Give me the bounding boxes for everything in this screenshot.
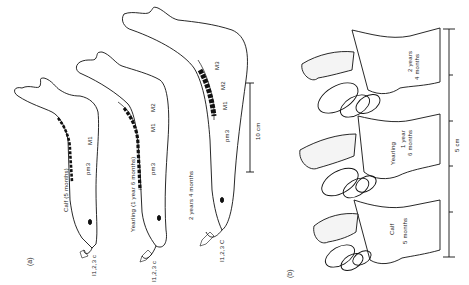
incisor-label-2-years: I1,2,3 C [219,239,225,262]
mandible-2-years [122,7,247,246]
incisor-label-calf: I1,2,3 c [91,255,97,276]
incisor-label-yearling: I1,2,3 c [151,261,157,282]
mandible-yearling [76,52,168,262]
tooth-label-2y-m2: M2 [220,81,226,90]
incisor-arcade-calf [314,200,440,274]
arcade-label-calf-line1: Calf [389,224,395,235]
figure-drawing [0,0,469,285]
incisor-arcade-yearling [300,114,440,202]
age-label-2-years: 2 years 4 months [188,171,194,220]
arcade-label-calf-line2: 5 months [402,218,408,244]
scale-bar-10cm [246,83,254,172]
arcade-label-yearling-line2: 1 year [400,130,406,148]
tooth-label-yearling-pm3: pm3 [150,163,156,175]
age-label-calf: Calf (5 months) [63,168,69,212]
tooth-label-2y-pm3: pm3 [224,130,230,142]
arcade-label-yearling-line1: Yearling [390,142,396,165]
arcade-label-2y-line2: 4 months [414,54,420,80]
scale-label-10cm: 10 cm [255,123,261,140]
tooth-label-yearling-m1: M1 [150,123,156,132]
arcade-label-yearling-line3: 6 months [407,130,413,156]
arcade-label-2y-line1: 2 years [407,51,413,72]
tooth-label-2y-m3: M3 [214,61,220,70]
tooth-label-yearling-m2: M2 [150,103,156,112]
tooth-label-2y-m1: M1 [222,101,228,110]
tooth-label-calf-m1: M1 [87,136,93,145]
panel-b-label: (b) [286,269,293,278]
tooth-label-calf-pm3: pm3 [85,163,91,175]
scale-label-5cm: 5 cm [454,138,460,152]
age-label-yearling: Yearling (1 year 6 months) [130,157,136,232]
panel-a-label: (a) [26,257,33,266]
